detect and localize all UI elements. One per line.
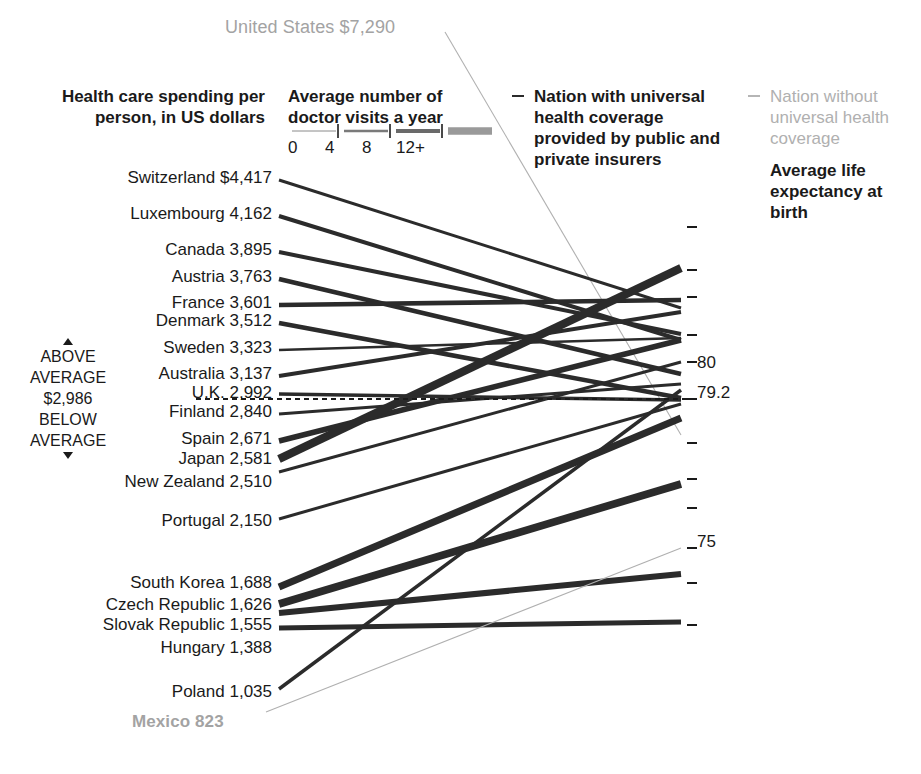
visits-tick-label: 4 (325, 138, 334, 158)
axis-value-label: 79.2 (697, 384, 730, 401)
legend-universal-coverage: Nation with universal health coverage pr… (512, 86, 732, 170)
country-spending-label: Austria 3,763 (12, 268, 272, 285)
country-spending-label: Poland 1,035 (12, 683, 272, 700)
country-spending-label: Denmark 3,512 (12, 312, 272, 329)
life-expectancy-title: Average life expectancy at birth (770, 160, 920, 223)
slope-line (279, 574, 681, 613)
country-spending-label: Luxembourg 4,162 (12, 205, 272, 222)
country-spending-label: Portugal 2,150 (12, 512, 272, 529)
country-spending-label: Japan 2,581 (12, 450, 272, 467)
country-spending-label: Canada 3,895 (12, 241, 272, 258)
country-spending-label: Switzerland $4,417 (12, 169, 272, 186)
country-spending-label: Australia 3,137 (12, 365, 272, 382)
slope-line (279, 362, 681, 472)
slope-line (266, 548, 681, 712)
country-spending-label: Spain 2,671 (12, 430, 272, 447)
country-label-list: Switzerland $4,417Luxembourg 4,162Canada… (10, 0, 272, 774)
axis-value-label: 75 (697, 533, 716, 550)
legend-universal-label: Nation with universal health coverage pr… (534, 86, 732, 170)
legend-universal-dash-icon (512, 95, 524, 97)
country-spending-label: Finland 2,840 (12, 403, 272, 420)
legend-no-universal-dash-icon (748, 95, 760, 97)
visits-tick-label: 0 (288, 138, 297, 158)
visits-tick-label: 12+ (396, 138, 425, 158)
country-spending-label: Czech Republic 1,626 (12, 596, 272, 613)
legend-no-universal-coverage: Nation without universal health coverage (748, 86, 913, 149)
slope-line (279, 180, 681, 308)
axis-value-label: 80 (697, 354, 716, 371)
country-spending-label: U.K. 2,992 (12, 384, 272, 401)
country-spending-label: Sweden 3,323 (12, 339, 272, 356)
visits-tick-label: 8 (362, 138, 371, 158)
legend-no-universal-label: Nation without universal health coverage (770, 86, 913, 149)
visits-tick-labels: 04812+ (288, 138, 498, 160)
visits-weight-legend (292, 123, 492, 139)
slope-line (279, 268, 681, 459)
visits-title: Average number of doctor visits a year (288, 86, 493, 128)
country-spending-label: South Korea 1,688 (12, 574, 272, 591)
country-spending-label: France 3,601 (12, 294, 272, 311)
country-spending-label: New Zealand 2,510 (12, 473, 272, 490)
country-spending-label: Slovak Republic 1,555 (12, 616, 272, 633)
country-spending-label: Hungary 1,388 (12, 639, 272, 656)
